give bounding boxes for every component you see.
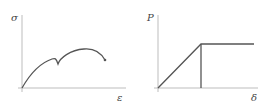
x-axis-label: δ [251,92,257,103]
x-axis-label: ε [117,92,122,103]
load-displacement-plot: P δ [134,0,268,108]
load-displacement-diagram: P δ [134,0,268,108]
stress-strain-curve [22,49,105,88]
curve-end-dot [104,59,107,62]
stress-strain-plot: σ ε [0,0,134,108]
y-axis-label: P [146,12,154,23]
y-axis-label: σ [11,12,19,23]
load-displacement-curve [158,44,254,88]
stress-strain-diagram: σ ε [0,0,134,108]
